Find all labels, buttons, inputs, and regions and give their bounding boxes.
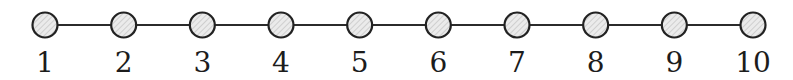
graph-node: [347, 13, 372, 38]
path-graph-canvas: 12345678910: [0, 0, 793, 80]
node-label: 1: [36, 46, 54, 79]
graph-node: [190, 13, 215, 38]
graph-node: [33, 13, 58, 38]
graph-node: [426, 13, 451, 38]
graph-node: [583, 13, 608, 38]
node-label: 5: [351, 46, 369, 79]
graph-node: [662, 13, 687, 38]
node-label: 3: [193, 46, 211, 79]
node-label: 4: [272, 46, 290, 79]
graph-node: [741, 13, 766, 38]
graph-node: [505, 13, 530, 38]
node-label: 2: [115, 46, 133, 79]
path-graph-diagram: 12345678910: [0, 0, 793, 80]
node-label: 6: [429, 46, 447, 79]
graph-node: [111, 13, 136, 38]
node-label: 8: [587, 46, 605, 79]
node-label: 7: [508, 46, 526, 79]
node-label: 9: [665, 46, 683, 79]
graph-node: [269, 13, 294, 38]
node-label: 10: [735, 46, 771, 79]
node-labels: 12345678910: [36, 46, 771, 79]
